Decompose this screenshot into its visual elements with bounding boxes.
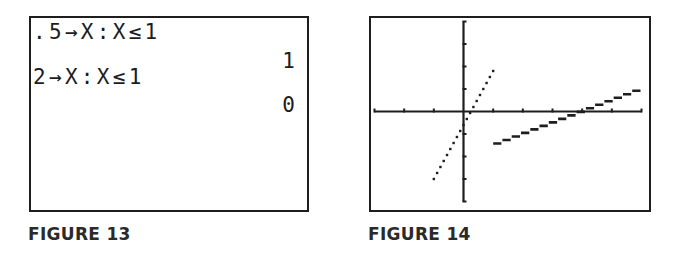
- plot-dot: [449, 148, 451, 150]
- plot-segment-1: [493, 91, 640, 144]
- plot-dot: [466, 118, 468, 120]
- figure-14-caption: FIGURE 14: [368, 224, 471, 244]
- plot-dot: [433, 178, 435, 180]
- plot-dot: [452, 142, 454, 144]
- graph-axes: [375, 22, 642, 202]
- plot-dot: [475, 100, 477, 102]
- plot-dot: [489, 76, 491, 78]
- calc-result-line-1: 1: [282, 50, 295, 72]
- plot-dot: [443, 160, 445, 162]
- graph-plot: [371, 18, 648, 209]
- plot-dot: [492, 70, 494, 72]
- plot-dot: [446, 154, 448, 156]
- plot-dot: [439, 166, 441, 168]
- plot-dot: [485, 82, 487, 84]
- calc-input-line-2: 2→X:X≤1: [33, 66, 145, 88]
- calc-input-line-1: .5→X:X≤1: [33, 21, 161, 43]
- figure-13-caption: FIGURE 13: [28, 224, 131, 244]
- plot-dot: [459, 130, 461, 132]
- plot-dot: [462, 124, 464, 126]
- calculator-home-screen: .5→X:X≤1 1 2→X:X≤1 0: [29, 16, 309, 212]
- plot-dot: [456, 136, 458, 138]
- plot-dot: [482, 88, 484, 90]
- plot-dot: [469, 112, 471, 114]
- calc-result-line-2: 0: [282, 94, 295, 116]
- plot-dot: [472, 106, 474, 108]
- calculator-graph-screen: [369, 16, 651, 212]
- plot-dot: [436, 172, 438, 174]
- plot-dot: [479, 94, 481, 96]
